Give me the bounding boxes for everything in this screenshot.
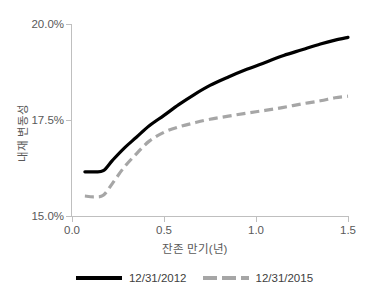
legend-label-12-31-2015: 12/31/2015 (256, 272, 314, 284)
x-axis-tick-label: 0.5 (144, 224, 184, 236)
implied-volatility-term-structure-chart: 15.0%17.5%20.0% 0.00.51.01.5 내재 변동성 잔존 만… (0, 0, 389, 305)
legend-swatch-dashed-icon (203, 276, 249, 280)
legend-label-12-31-2012: 12/31/2012 (129, 272, 187, 284)
x-axis-tick-label: 1.0 (236, 224, 276, 236)
x-axis-tick (256, 217, 257, 222)
y-axis-title: 내재 변동성 (14, 104, 30, 162)
chart-legend: 12/31/2012 12/31/2015 (0, 272, 389, 284)
x-axis-tick-label: 1.5 (328, 224, 368, 236)
x-axis-tick-label: 0.0 (52, 224, 92, 236)
y-axis-tick-label: 15.0% (31, 210, 64, 222)
y-axis-tick-label: 17.5% (31, 114, 64, 126)
legend-swatch-solid-icon (76, 276, 122, 280)
y-axis-tick-label: 20.0% (31, 18, 64, 30)
x-axis-tick (348, 217, 349, 222)
legend-entry-12-31-2015: 12/31/2015 (203, 272, 314, 284)
series-line-12-31-2012 (85, 37, 348, 171)
legend-entry-12-31-2012: 12/31/2012 (76, 272, 187, 284)
x-axis-tick (164, 217, 165, 222)
x-axis-tick (72, 217, 73, 222)
series-canvas (72, 24, 348, 216)
plot-area (72, 24, 348, 216)
x-axis-title: 잔존 만기(년) (0, 240, 389, 256)
x-axis-line (71, 216, 349, 217)
